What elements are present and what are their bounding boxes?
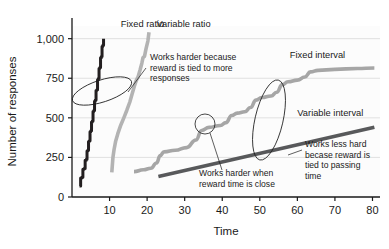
y-tick-label-500: 500	[46, 112, 64, 124]
x-tick-label-70: 70	[329, 204, 341, 216]
chart-canvas: Fixed ratioVariable ratioFixed intervalV…	[0, 0, 389, 249]
x-tick-label-20: 20	[141, 204, 153, 216]
annotation-text-fi-scallop-note: Works harder whenreward time is close	[199, 168, 275, 189]
x-tick-label-60: 60	[291, 204, 303, 216]
series-label-variable-ratio: Variable ratio	[157, 19, 211, 29]
series-label-fixed-interval: Fixed interval	[290, 50, 345, 60]
y-tick-label-0: 0	[58, 191, 64, 203]
y-tick-label-250: 250	[46, 151, 64, 163]
y-tick-label-750: 750	[46, 72, 64, 84]
x-tick-label-10: 10	[103, 204, 115, 216]
y-tick-label-1000: 1,000	[36, 33, 64, 45]
y-axis-title: Number of responses	[6, 56, 18, 166]
x-tick-label-50: 50	[254, 204, 266, 216]
chart-figure: Fixed ratioVariable ratioFixed intervalV…	[0, 0, 389, 249]
series-label-variable-interval: Variable interval	[297, 108, 363, 118]
x-axis-title: Time	[213, 225, 238, 237]
x-tick-label-30: 30	[179, 204, 191, 216]
x-tick-label-80: 80	[366, 204, 378, 216]
x-tick-label-40: 40	[216, 204, 228, 216]
